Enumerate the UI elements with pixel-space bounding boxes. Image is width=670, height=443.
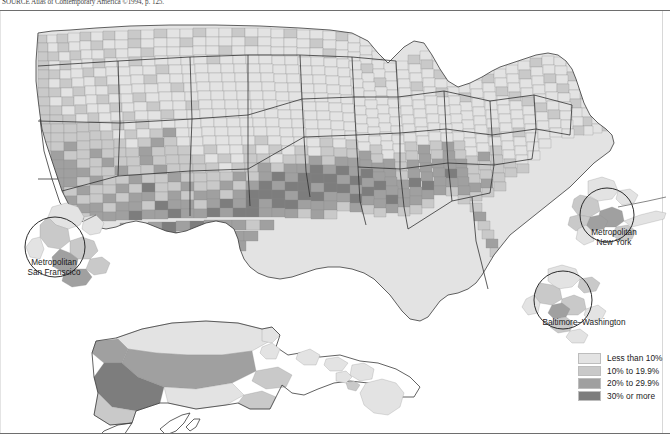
- map-legend: Less than 10% 10% to 19.9% 20% to 29.9% …: [578, 352, 670, 402]
- legend-row: 30% or more: [578, 390, 670, 403]
- legend-row: 10% to 19.9%: [578, 365, 670, 378]
- source-credit: SOURCE Atlas of Contemporary America ©19…: [2, 0, 164, 7]
- inset-caption-san-francisco: Metropolitan San Franscico: [2, 258, 106, 279]
- legend-swatch-10-to-19: [578, 366, 601, 377]
- legend-label-30-or-more: 30% or more: [607, 391, 655, 401]
- legend-swatch-less-than-10: [578, 353, 601, 364]
- map-plate: [0, 10, 670, 434]
- baltimore-washington-inset: [522, 265, 606, 343]
- legend-row: 20% to 29.9%: [578, 377, 670, 390]
- legend-row: Less than 10%: [578, 352, 670, 365]
- map-page: SOURCE Atlas of Contemporary America ©19…: [0, 0, 670, 443]
- legend-swatch-20-to-29: [578, 378, 601, 389]
- inset-caption-new-york: Metropolitan New York: [566, 228, 662, 249]
- inset-caption-baltimore-washington: Baltimore–Washington: [520, 318, 648, 328]
- legend-label-20-to-29: 20% to 29.9%: [607, 378, 659, 388]
- choropleth-map: [0, 11, 670, 433]
- legend-swatch-30-or-more: [578, 391, 601, 402]
- legend-label-10-to-19: 10% to 19.9%: [607, 366, 659, 376]
- legend-label-less-than-10: Less than 10%: [607, 353, 663, 363]
